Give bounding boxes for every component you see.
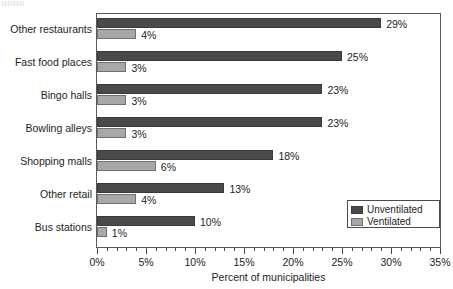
category-label: Bingo halls bbox=[0, 90, 92, 101]
x-axis-tick-labels: 0%5%10%15%20%25%30%35% bbox=[0, 256, 453, 270]
bar-unventilated bbox=[97, 150, 273, 160]
x-axis-tick-label: 15% bbox=[233, 256, 254, 268]
x-axis-minor-tick bbox=[362, 248, 363, 251]
x-axis-minor-tick bbox=[264, 248, 265, 251]
x-axis-minor-tick bbox=[303, 248, 304, 251]
x-axis-minor-tick bbox=[254, 248, 255, 251]
x-axis-minor-tick bbox=[411, 248, 412, 251]
x-axis-minor-tick bbox=[166, 248, 167, 251]
x-axis-minor-tick bbox=[322, 248, 323, 251]
x-axis-minor-tick bbox=[401, 248, 402, 251]
x-axis-minor-tick bbox=[420, 248, 421, 251]
legend-label-ventilated: Ventilated bbox=[367, 217, 411, 227]
x-axis-major-tick bbox=[293, 248, 294, 254]
bar-value-label: 3% bbox=[131, 63, 146, 73]
x-axis-tick-label: 30% bbox=[380, 256, 401, 268]
x-axis-minor-tick bbox=[117, 248, 118, 251]
bar-value-label: 1% bbox=[112, 228, 127, 238]
bar-ventilated bbox=[97, 161, 156, 171]
bar-value-label: 18% bbox=[278, 151, 299, 161]
x-axis-tick-label: 20% bbox=[282, 256, 303, 268]
category-label: Other retail bbox=[0, 189, 92, 200]
bar-value-label: 13% bbox=[229, 184, 250, 194]
x-axis-minor-tick bbox=[352, 248, 353, 251]
x-axis-minor-tick bbox=[430, 248, 431, 251]
legend-swatch-icon-unventilated bbox=[351, 206, 363, 214]
bar-value-label: 29% bbox=[386, 19, 407, 29]
x-axis-major-tick bbox=[195, 248, 196, 254]
category-label: Bus stations bbox=[0, 222, 92, 233]
bar-value-label: 25% bbox=[347, 52, 368, 62]
bar-ventilated bbox=[97, 128, 126, 138]
x-axis-minor-tick bbox=[371, 248, 372, 251]
bar-chart: Other restaurantsFast food placesBingo h… bbox=[0, 0, 453, 289]
bar-ventilated bbox=[97, 29, 136, 39]
x-axis-minor-tick bbox=[205, 248, 206, 251]
x-axis-tick-label: 10% bbox=[184, 256, 205, 268]
x-axis-minor-tick bbox=[156, 248, 157, 251]
x-axis-minor-tick bbox=[234, 248, 235, 251]
bar-value-label: 4% bbox=[141, 195, 156, 205]
bar-unventilated bbox=[97, 51, 342, 61]
x-axis-major-tick bbox=[391, 248, 392, 254]
scan-artifact bbox=[2, 1, 24, 6]
bar-value-label: 23% bbox=[327, 85, 348, 95]
bar-unventilated bbox=[97, 117, 322, 127]
bar-unventilated bbox=[97, 18, 381, 28]
x-axis-minor-tick bbox=[381, 248, 382, 251]
x-axis-major-tick bbox=[97, 248, 98, 254]
legend-label-unventilated: Unventilated bbox=[367, 205, 423, 215]
x-axis-title: Percent of municipalities bbox=[97, 271, 440, 283]
category-label: Bowling alleys bbox=[0, 123, 92, 134]
x-axis-major-tick bbox=[146, 248, 147, 254]
bar-unventilated bbox=[97, 216, 195, 226]
x-axis-minor-tick bbox=[283, 248, 284, 251]
x-axis-tick-label: 35% bbox=[429, 256, 450, 268]
x-axis-minor-tick bbox=[215, 248, 216, 251]
x-axis-minor-tick bbox=[224, 248, 225, 251]
category-label: Shopping malls bbox=[0, 156, 92, 167]
x-axis-minor-tick bbox=[185, 248, 186, 251]
bar-value-label: 4% bbox=[141, 30, 156, 40]
x-axis-minor-tick bbox=[273, 248, 274, 251]
bar-ventilated bbox=[97, 95, 126, 105]
x-axis-minor-tick bbox=[136, 248, 137, 251]
category-axis-labels: Other restaurantsFast food placesBingo h… bbox=[0, 13, 92, 248]
bar-unventilated bbox=[97, 183, 224, 193]
x-axis-minor-tick bbox=[175, 248, 176, 251]
legend-entry-unventilated: Unventilated bbox=[351, 204, 436, 215]
category-label: Fast food places bbox=[0, 57, 92, 68]
bar-ventilated bbox=[97, 62, 126, 72]
legend-swatch-icon-ventilated bbox=[351, 218, 363, 226]
bar-value-label: 23% bbox=[327, 118, 348, 128]
chart-legend: Unventilated Ventilated bbox=[347, 200, 440, 228]
bar-value-label: 3% bbox=[131, 129, 146, 139]
x-axis-minor-tick bbox=[313, 248, 314, 251]
x-axis-minor-tick bbox=[107, 248, 108, 251]
x-axis-tick-label: 5% bbox=[138, 256, 153, 268]
x-axis-major-tick bbox=[342, 248, 343, 254]
bar-ventilated bbox=[97, 227, 107, 237]
x-axis-ticks bbox=[97, 248, 440, 256]
bar-value-label: 6% bbox=[161, 162, 176, 172]
x-axis-minor-tick bbox=[126, 248, 127, 251]
bar-value-label: 10% bbox=[200, 217, 221, 227]
bar-value-label: 3% bbox=[131, 96, 146, 106]
x-axis-tick-label: 25% bbox=[331, 256, 352, 268]
x-axis-major-tick bbox=[440, 248, 441, 254]
legend-entry-ventilated: Ventilated bbox=[351, 216, 436, 227]
bar-ventilated bbox=[97, 194, 136, 204]
x-axis-minor-tick bbox=[332, 248, 333, 251]
bar-unventilated bbox=[97, 84, 322, 94]
x-axis-major-tick bbox=[244, 248, 245, 254]
category-label: Other restaurants bbox=[0, 24, 92, 35]
x-axis-tick-label: 0% bbox=[89, 256, 104, 268]
